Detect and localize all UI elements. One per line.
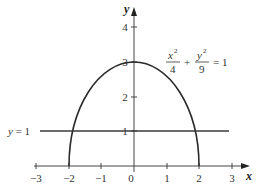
y-tick-label: 4 [122,21,128,33]
y-tick-label: 2 [122,91,128,103]
x-tick-label: 0 [128,172,134,184]
svg-text:2: 2 [203,47,207,55]
svg-text:= 1: = 1 [213,56,227,68]
svg-text:+: + [184,56,190,68]
svg-text:4: 4 [170,63,176,75]
y-axis-arrow-icon [131,7,137,16]
x-tick-label: 2 [196,172,202,184]
ellipse-diagram: −3 −2 −1 0 1 2 3 x 1 2 3 4 y y = 1 x 2 4… [0,0,261,195]
svg-text:9: 9 [199,63,205,75]
svg-text:x: x [167,49,173,61]
x-tick-label: −3 [30,172,42,184]
svg-text:2: 2 [174,47,178,55]
x-tick-label: 1 [164,172,170,184]
svg-text:y: y [196,49,202,61]
x-tick-label: −1 [95,172,107,184]
y-axis-label: y [122,2,130,16]
ellipse-equation: x 2 4 + y 2 9 = 1 [166,47,227,75]
x-axis-label: x [245,169,252,183]
x-tick-label: 3 [229,172,235,184]
x-tick-label: −2 [63,172,75,184]
line-label: y = 1 [7,125,30,137]
